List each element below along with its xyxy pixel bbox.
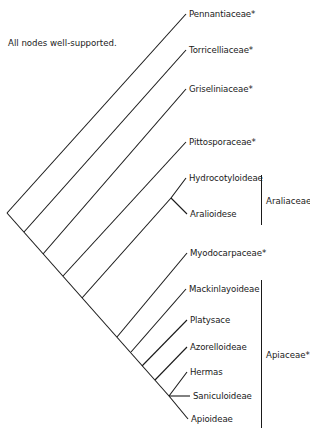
apiaceae-bracket-bar [261, 280, 262, 428]
taxon-label-saniculoideae: Saniculoideae [193, 391, 252, 401]
platysace-branch [142, 320, 187, 366]
apioideae-branch [169, 396, 188, 419]
araliaceae-bracket-bar [261, 175, 262, 225]
griseliniaceae-branch [43, 89, 186, 254]
mackinlayoideae-branch [131, 289, 186, 352]
apiaceae-clade-label: Apiaceae* [266, 350, 310, 360]
taxon-label-aralioidese: Aralioidese [190, 209, 237, 219]
hermas-branch [169, 372, 187, 396]
azorelloideae-branch [155, 347, 187, 380]
phylogenetic-tree [0, 0, 310, 434]
taxon-label-azorelloideae: Azorelloideae [190, 342, 247, 352]
torricelliaceae-branch [24, 50, 186, 232]
taxon-label-hydrocotyloideae: Hydrocotyloideae [189, 173, 263, 183]
taxon-label-myodocarpaceae: Myodocarpaceae* [190, 248, 266, 258]
araliaceae-clade-label: Araliaceae* [266, 196, 310, 206]
support-note: All nodes well-supported. [8, 38, 117, 48]
taxon-label-apioideae: Apioideae [191, 414, 233, 424]
taxon-label-torricelliaceae: Torricelliaceae* [189, 45, 253, 55]
taxon-label-platysace: Platysace [190, 315, 230, 325]
aralioidese-branch [171, 198, 187, 214]
taxon-label-pennantiaceae: Pennantiaceae* [189, 9, 255, 19]
taxon-label-griseliniaceae: Griseliniaceae* [189, 84, 253, 94]
taxon-label-hermas: Hermas [190, 367, 223, 377]
hydrocotyloideae-branch [171, 178, 186, 198]
araliaceae-stem-branch [82, 198, 171, 298]
myodocarpaceae-branch [117, 253, 187, 337]
taxon-label-pittosporaceae: Pittosporaceae* [189, 137, 256, 147]
taxon-label-mackinlayoideae: Mackinlayoideae [189, 284, 259, 294]
